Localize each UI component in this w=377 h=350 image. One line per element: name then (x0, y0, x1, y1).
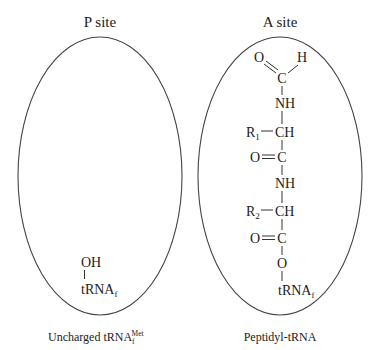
carbonyl-oxygen-2: O (250, 231, 260, 246)
carbonyl-carbon-1: C (277, 150, 286, 165)
a-site-trna: tRNAf (278, 283, 314, 300)
p-site-oh: OH (81, 255, 101, 270)
carbonyl-oxygen-1: O (250, 150, 260, 165)
amine-1: NH (275, 96, 295, 111)
ch-2: CH (275, 204, 294, 219)
double-bond-line (266, 61, 278, 70)
amine-2: NH (275, 176, 295, 191)
bond-line (288, 65, 298, 73)
p-site-caption: Uncharged tRNAfMet (48, 329, 145, 346)
formyl-oxygen: O (254, 50, 264, 65)
ribosome-sites-diagram: P site OH tRNAf Uncharged tRNAfMet A sit… (0, 0, 377, 350)
p-site-trna: tRNAf (81, 282, 117, 299)
formyl-hydrogen: H (297, 50, 307, 65)
carbonyl-carbon-2: C (277, 231, 286, 246)
ch-1: CH (275, 125, 294, 140)
double-bond-line (264, 64, 276, 73)
p-site-ellipse (18, 37, 182, 315)
a-site-title: A site (263, 14, 298, 30)
r1-group: R1 (246, 125, 260, 142)
a-site-caption: Peptidyl-tRNA (244, 330, 317, 344)
ester-oxygen: O (277, 256, 287, 271)
p-site-title: P site (84, 14, 117, 30)
r2-group: R2 (246, 204, 260, 221)
formyl-carbon: C (277, 71, 286, 86)
